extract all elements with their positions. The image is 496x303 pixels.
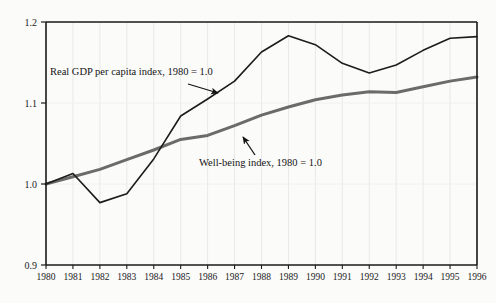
- x-axis-tick-label: 1990: [306, 272, 325, 282]
- x-axis-tick-label: 1984: [144, 272, 163, 282]
- x-axis-tick-label: 1980: [37, 272, 56, 282]
- grid-layer: [46, 22, 477, 265]
- y-axis-tick-label: 0.9: [25, 260, 38, 271]
- x-axis-tick-label: 1987: [225, 272, 244, 282]
- wellbeing-annotation-arrow: [243, 137, 255, 155]
- wellbeing-annotation-text: Well-being index, 1980 = 1.0: [199, 157, 322, 168]
- line-chart: 0.91.01.11.2 198019811982198319841985198…: [0, 0, 496, 303]
- annotation-layer: Real GDP per capita index, 1980 = 1.0Wel…: [50, 66, 322, 168]
- gdp-annotation-arrow: [188, 84, 218, 93]
- y-axis-tick-label: 1.0: [25, 179, 38, 190]
- x-axis-tick-label: 1989: [279, 272, 298, 282]
- y-axis-tick-label: 1.2: [25, 17, 38, 28]
- gdp-annotation-text: Real GDP per capita index, 1980 = 1.0: [50, 66, 213, 77]
- x-axis-tick-label: 1992: [360, 272, 379, 282]
- x-axis-tick-labels: 1980198119821983198419851986198719881989…: [37, 265, 487, 282]
- x-axis-tick-label: 1985: [171, 272, 190, 282]
- x-axis-tick-label: 1994: [414, 272, 433, 282]
- y-axis-tick-label: 1.1: [25, 98, 38, 109]
- chart-figure: 0.91.01.11.2 198019811982198319841985198…: [0, 0, 496, 303]
- x-axis-tick-label: 1981: [63, 272, 82, 282]
- y-axis-tick-labels: 0.91.01.11.2: [25, 17, 47, 271]
- x-axis-tick-label: 1996: [468, 272, 487, 282]
- x-axis-tick-label: 1982: [90, 272, 109, 282]
- x-axis-tick-label: 1983: [117, 272, 136, 282]
- x-axis-tick-label: 1995: [441, 272, 460, 282]
- x-axis-tick-label: 1991: [333, 272, 352, 282]
- x-axis-tick-label: 1993: [387, 272, 406, 282]
- x-axis-tick-label: 1986: [198, 272, 217, 282]
- x-axis-tick-label: 1988: [252, 272, 271, 282]
